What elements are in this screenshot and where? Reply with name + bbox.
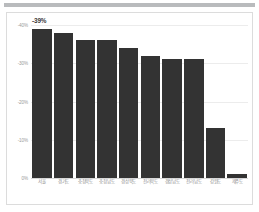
plot-area: -40%-30%-20%-10%0% -39% [31, 25, 248, 178]
x-axis-tick-label: 충청북도 [76, 178, 96, 198]
bar-column[interactable] [119, 25, 139, 178]
bar[interactable] [141, 56, 161, 178]
bar[interactable] [162, 59, 182, 178]
bar-column[interactable] [76, 25, 96, 178]
x-axis-tick-label: 경상북도 [119, 178, 139, 198]
x-axis-tick-label: 경기도 [54, 178, 74, 198]
bar[interactable] [119, 48, 139, 178]
y-axis-tick-label: -20% [18, 99, 28, 104]
y-axis-tick-label: 0% [22, 176, 28, 181]
bar[interactable] [76, 40, 96, 178]
y-axis-tick-label: -30% [18, 61, 28, 66]
bar[interactable] [54, 33, 74, 178]
bar-column[interactable] [97, 25, 117, 178]
x-axis-tick-label: 경상남도 [162, 178, 182, 198]
x-axis-tick-label: 제주도 [227, 178, 247, 198]
chart-panel: -40%-30%-20%-10%0% -39% 서울경기도충청북도충청남도경상북… [6, 12, 253, 205]
bar-column[interactable] [54, 25, 74, 178]
bar[interactable] [206, 128, 226, 178]
bars-group: -39% [31, 25, 248, 178]
bar[interactable] [97, 40, 117, 178]
bar-column[interactable] [184, 25, 204, 178]
bar[interactable] [184, 59, 204, 178]
x-axis-tick-label: 충청남도 [97, 178, 117, 198]
bar-column[interactable]: -39% [32, 25, 52, 178]
x-axis-tick-label: 서울 [32, 178, 52, 198]
bar-column[interactable] [227, 25, 247, 178]
y-axis-tick-label: -10% [18, 137, 28, 142]
bar-column[interactable] [206, 25, 226, 178]
top-divider-strip [4, 3, 255, 7]
x-axis-tick-label: 전라북도 [141, 178, 161, 198]
x-axis-tick-label: 전라남도 [184, 178, 204, 198]
y-axis-tick-label: -40% [18, 23, 28, 28]
x-axis-labels: 서울경기도충청북도충청남도경상북도전라북도경상남도전라남도강원도제주도 [31, 178, 248, 198]
bar-column[interactable] [162, 25, 182, 178]
chart-screenshot: -40%-30%-20%-10%0% -39% 서울경기도충청북도충청남도경상북… [0, 0, 259, 212]
x-axis-tick-label: 강원도 [206, 178, 226, 198]
bar-value-label: -39% [32, 17, 46, 24]
bar[interactable]: -39% [32, 29, 52, 178]
bar-column[interactable] [141, 25, 161, 178]
